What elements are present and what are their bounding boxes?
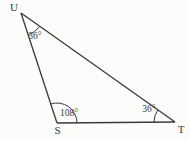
side-st-line: [57, 122, 175, 123]
vertex-label-u: U: [10, 1, 18, 13]
angle-label-s: 108°: [60, 108, 78, 118]
vertex-label-s: S: [54, 124, 60, 136]
triangle-diagram: U S T 36° 108° 36°: [0, 0, 189, 141]
triangle-svg: U S T 36° 108° 36°: [0, 0, 189, 141]
side-us-line: [21, 13, 57, 123]
angle-label-u: 36°: [28, 31, 42, 41]
angle-label-t: 36°: [142, 104, 156, 114]
vertex-label-t: T: [178, 123, 185, 135]
